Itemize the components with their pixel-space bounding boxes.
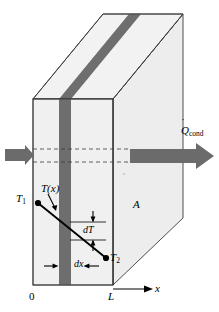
label-T2-subscript: 2 (116, 256, 120, 265)
heat-arrow-in (5, 145, 34, 165)
label-temperature-function: T(x) (41, 183, 59, 194)
label-T1-subscript: 1 (22, 197, 26, 206)
heat-conduction-diagram: T1 T2 T(x) A dT dx 0 L x Q̇cond (0, 0, 219, 312)
label-x-axis: x (155, 283, 160, 294)
x-axis-arrowhead (144, 286, 153, 293)
temperature-point-T2 (103, 255, 109, 261)
label-heat-rate-symbol: Q (181, 124, 189, 136)
diagram-canvas (0, 0, 219, 312)
label-thickness: L (108, 291, 114, 302)
label-heat-rate-subscript: cond (189, 129, 204, 138)
wall-front-band (59, 99, 71, 285)
label-dx: dx (74, 259, 83, 269)
temperature-point-T1 (35, 200, 41, 206)
label-T2: T2 (110, 252, 120, 265)
scan-speck (123, 173, 124, 174)
label-area: A (133, 199, 140, 210)
label-origin: 0 (29, 291, 35, 302)
label-dT: dT (83, 225, 94, 235)
x-axis (113, 286, 153, 293)
label-heat-rate: Q̇cond (181, 125, 203, 138)
label-T1: T1 (16, 193, 26, 206)
